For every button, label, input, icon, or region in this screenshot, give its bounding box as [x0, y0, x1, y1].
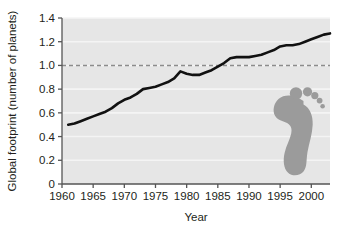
- y-tick-label: 1.4: [39, 12, 56, 24]
- footprint-chart-figure: 00.20.40.60.81.01.21.4 19601965197019751…: [0, 0, 347, 229]
- x-tick-label: 1970: [112, 190, 138, 202]
- y-tick-label: 0: [49, 178, 55, 190]
- x-tick-label: 1995: [267, 190, 293, 202]
- x-tick-label: 1965: [80, 190, 106, 202]
- x-tick-label: 1975: [143, 190, 169, 202]
- x-tick-label: 1960: [49, 190, 75, 202]
- x-tick-label: 2000: [299, 190, 325, 202]
- chart-canvas: 00.20.40.60.81.01.21.4 19601965197019751…: [0, 0, 347, 229]
- x-tick-label: 1980: [174, 190, 200, 202]
- y-axis-title: Global footprint (number of planets): [6, 10, 18, 191]
- y-tick-label: 1.0: [39, 59, 55, 71]
- y-tick-label: 0.8: [39, 83, 55, 95]
- x-axis-ticks: 196019651970197519801985199019952000: [49, 184, 324, 202]
- y-tick-label: 0.4: [39, 131, 56, 143]
- x-tick-label: 1990: [236, 190, 262, 202]
- y-axis-ticks: 00.20.40.60.81.01.21.4: [39, 12, 62, 190]
- y-tick-label: 1.2: [39, 36, 55, 48]
- x-axis-title: Year: [184, 211, 207, 223]
- x-tick-label: 1985: [205, 190, 231, 202]
- y-tick-label: 0.2: [39, 154, 55, 166]
- y-tick-label: 0.6: [39, 107, 55, 119]
